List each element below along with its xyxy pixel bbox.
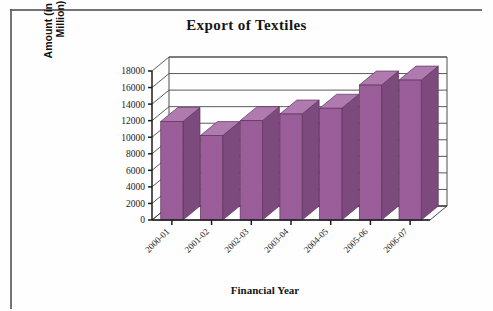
y-tick-label: 6000 [126,166,145,176]
y-tick-label: 2000 [126,199,145,209]
bar-2001-02 [200,122,239,220]
y-tick-labels: 0200040006000800010000120001400016000180… [121,66,145,225]
bar-2005-06 [359,71,398,220]
y-tick-label: 8000 [126,149,145,159]
y-tick-label: 4000 [126,182,145,192]
x-tick-label-2004-05: 2004-05 [302,226,331,255]
y-tick-label: 14000 [121,100,145,110]
bar-2006-07 [399,66,438,220]
x-tick-label-2000-01: 2000-01 [143,226,171,254]
bar-2004-05 [320,94,359,220]
y-tick-label: 18000 [121,66,145,76]
y-tick-label: 16000 [121,83,145,93]
figure-page: Export of Textiles Amount (in US$ Millio… [0,0,493,311]
x-tick-label-2005-06: 2005-06 [342,226,371,255]
x-tick-labels: 2000-012001-022002-032003-042004-052005-… [143,226,410,255]
y-tick-label: 0 [140,215,145,225]
x-tick-label-2002-03: 2002-03 [222,226,251,255]
bar-2000-01 [161,107,200,220]
x-tick-label-2003-04: 2003-04 [262,226,291,255]
y-tick-label: 10000 [121,133,145,143]
bars-group [161,66,439,220]
x-tick-label-2001-02: 2001-02 [183,226,211,254]
bar-2003-04 [280,100,319,220]
bar-2002-03 [240,107,279,220]
y-tick-label: 12000 [121,116,145,126]
x-tick-label-2006-07: 2006-07 [381,226,410,255]
bar-chart-plot: 0200040006000800010000120001400016000180… [0,0,493,311]
